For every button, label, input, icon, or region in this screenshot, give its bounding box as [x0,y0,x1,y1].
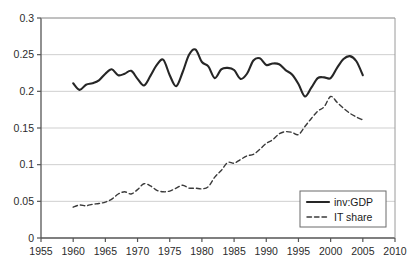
legend-label-it-share: IT share [334,211,372,223]
y-tick-label-0.15: 0.15 [14,122,35,134]
x-tick-label-1960: 1960 [62,245,86,257]
chart-legend: inv:GDPIT share [300,191,386,227]
y-tick-label-0.05: 0.05 [14,195,35,207]
x-tick-label-2005: 2005 [351,245,375,257]
x-tick-label-1970: 1970 [126,245,150,257]
x-tick-label-1995: 1995 [287,245,311,257]
line-chart: 00.050.10.150.20.250.3 19551960196519701… [0,0,414,267]
x-tick-label-1980: 1980 [190,245,214,257]
legend-label-inv-gdp: inv:GDP [334,196,373,208]
x-tick-label-2000: 2000 [319,245,343,257]
y-tick-label-0.2: 0.2 [19,85,34,97]
x-tick-label-1955: 1955 [29,245,53,257]
x-tick-label-2010: 2010 [383,245,407,257]
y-tick-label-0.3: 0.3 [19,12,34,24]
x-tick-label-1990: 1990 [255,245,279,257]
y-tick-label-0.1: 0.1 [19,158,34,170]
y-tick-label-0.25: 0.25 [14,48,35,60]
x-tick-label-1965: 1965 [94,245,118,257]
y-tick-label-0: 0 [28,232,34,244]
chart-container: 00.050.10.150.20.250.3 19551960196519701… [0,0,414,267]
x-tick-label-1975: 1975 [158,245,182,257]
x-tick-label-1985: 1985 [222,245,246,257]
